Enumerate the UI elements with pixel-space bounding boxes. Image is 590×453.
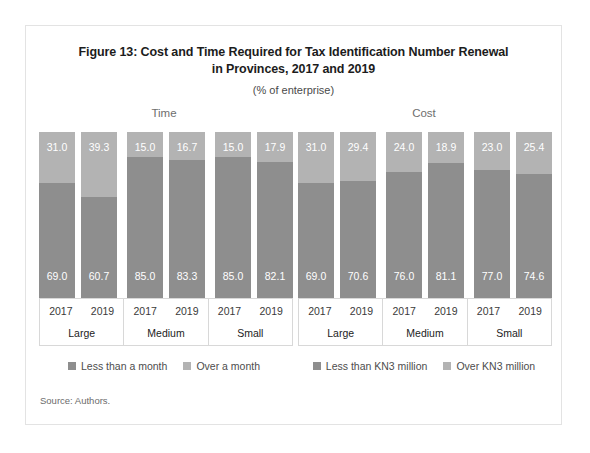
bar-segment-upper: 39.3 [81,132,117,197]
source-note: Source: Authors. [40,395,110,406]
year-label: 2017 [124,305,166,317]
group-label: Large [299,323,382,343]
bar-segment-upper: 15.0 [127,132,163,157]
stacked-bar: 23.077.0 [474,132,510,298]
year-label: 2017 [299,305,341,317]
legend-swatch-icon [68,362,76,370]
bar-value-label-lower: 85.0 [223,271,243,282]
bar-segment-upper: 31.0 [298,132,334,183]
bar-value-label-lower: 76.0 [394,271,414,282]
year-labels: 20172019 [209,299,292,323]
stacked-bar: 39.360.7 [81,132,117,298]
year-label: 2019 [82,305,124,317]
group-label: Small [468,323,551,343]
year-labels: 20172019 [299,299,382,323]
axis-group-medium: 20172019Medium [382,299,466,345]
axis-group-medium: 20172019Medium [123,299,207,345]
year-label: 2017 [40,305,82,317]
bar-segment-lower: 82.1 [257,162,293,298]
legend-label: Less than KN3 million [326,360,428,372]
figure-title-line1: Figure 13: Cost and Time Required for Ta… [26,44,561,61]
axis-group-large: 20172019Large [299,299,382,345]
year-label: 2017 [383,305,425,317]
stacked-bar: 17.982.1 [257,132,293,298]
bar-segment-lower: 69.0 [298,183,334,298]
bar-segment-lower: 81.1 [428,163,464,298]
stacked-bar: 25.474.6 [516,132,552,298]
figure-title: Figure 13: Cost and Time Required for Ta… [26,44,561,78]
bar-value-label-upper: 15.0 [135,142,155,153]
stacked-bar: 16.783.3 [169,132,205,298]
year-labels: 20172019 [124,299,207,323]
bar-segment-lower: 85.0 [215,157,251,298]
bar-value-label-lower: 70.6 [348,271,368,282]
figure-subtitle: (% of enterprise) [26,84,561,96]
bar-segment-lower: 76.0 [386,172,422,298]
bar-value-label-upper: 16.7 [177,142,197,153]
bar-segment-lower: 60.7 [81,197,117,298]
legend-label: Less than a month [81,360,167,372]
bar-value-label-lower: 69.0 [306,271,326,282]
bar-segment-lower: 83.3 [169,160,205,298]
group-label: Large [40,323,123,343]
axis-labels-cost: 20172019Large20172019Medium20172019Small [298,298,552,346]
bar-value-label-upper: 15.0 [223,142,243,153]
year-labels: 20172019 [468,299,551,323]
bar-value-label-lower: 85.0 [135,271,155,282]
axis-labels-time: 20172019Large20172019Medium20172019Small [39,298,293,346]
bar-segment-upper: 29.4 [340,132,376,181]
year-label: 2019 [250,305,292,317]
legend-swatch-icon [183,362,191,370]
bar-value-label-upper: 17.9 [265,142,285,153]
figure-page: Figure 13: Cost and Time Required for Ta… [25,25,562,425]
chart-panel-time: Time 31.069.039.360.715.085.016.783.315.… [39,104,289,372]
group-label: Medium [383,323,466,343]
chart-title-time: Time [39,104,289,122]
bar-value-label-lower: 60.7 [89,271,109,282]
bar-value-label-upper: 25.4 [524,142,544,153]
bar-segment-lower: 74.6 [516,174,552,298]
bar-segment-upper: 17.9 [257,132,293,162]
bar-segment-upper: 18.9 [428,132,464,163]
bar-segment-upper: 24.0 [386,132,422,172]
bar-value-label-upper: 31.0 [47,142,67,153]
chart-panel-cost: Cost 31.069.029.470.624.076.018.981.123.… [298,104,550,372]
bar-segment-upper: 25.4 [516,132,552,174]
stacked-bar: 24.076.0 [386,132,422,298]
bar-value-label-upper: 29.4 [348,142,368,153]
axis-group-small: 20172019Small [208,299,292,345]
bar-segment-upper: 16.7 [169,132,205,160]
plot-area-cost: 31.069.029.470.624.076.018.981.123.077.0… [298,132,552,298]
legend-swatch-icon [313,362,321,370]
axis-group-small: 20172019Small [467,299,551,345]
stacked-bar: 29.470.6 [340,132,376,298]
year-label: 2019 [166,305,208,317]
year-label: 2017 [209,305,251,317]
legend-swatch-icon [443,362,451,370]
legend-item: Less than KN3 million [313,360,428,372]
legend-item: Over KN3 million [443,360,535,372]
bar-segment-lower: 85.0 [127,157,163,298]
bar-value-label-lower: 69.0 [47,271,67,282]
year-label: 2019 [509,305,551,317]
stacked-bar: 15.085.0 [127,132,163,298]
legend-item: Over a month [183,360,260,372]
bar-segment-upper: 31.0 [39,132,75,183]
bar-value-label-upper: 23.0 [482,142,502,153]
year-labels: 20172019 [383,299,466,323]
chart-title-cost: Cost [298,104,550,122]
bar-value-label-upper: 18.9 [436,142,456,153]
bar-value-label-upper: 24.0 [394,142,414,153]
charts-container: Time 31.069.039.360.715.085.016.783.315.… [26,104,561,404]
year-label: 2019 [425,305,467,317]
year-label: 2017 [468,305,510,317]
stacked-bar: 18.981.1 [428,132,464,298]
figure-title-line2: in Provinces, 2017 and 2019 [26,61,561,78]
bar-segment-lower: 70.6 [340,181,376,298]
bar-segment-upper: 15.0 [215,132,251,157]
stacked-bar: 31.069.0 [39,132,75,298]
bar-value-label-upper: 31.0 [306,142,326,153]
axis-group-large: 20172019Large [40,299,123,345]
plot-area-time: 31.069.039.360.715.085.016.783.315.085.0… [39,132,293,298]
bar-value-label-lower: 74.6 [524,271,544,282]
